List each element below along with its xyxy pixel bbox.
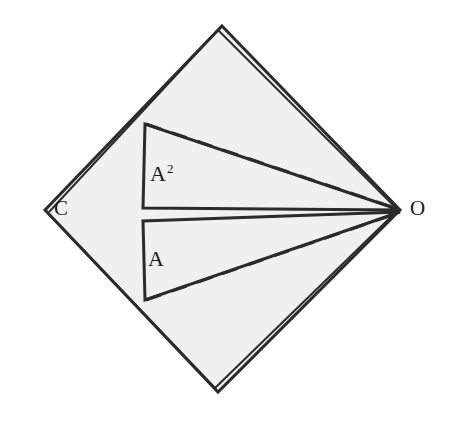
region-label-a-squared: A2	[150, 162, 173, 185]
region-label-a-squared-base: A	[150, 161, 166, 186]
region-label-a-squared-exponent: 2	[167, 161, 174, 176]
vertex-label-c: C	[54, 198, 68, 219]
vertex-label-o: O	[410, 198, 425, 219]
diagram-canvas: C O A2 A	[0, 0, 450, 425]
region-label-a: A	[148, 248, 164, 270]
